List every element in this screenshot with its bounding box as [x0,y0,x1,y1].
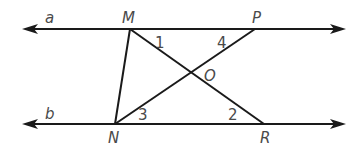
point-M-label: M [122,9,135,27]
angle-1-label: 1 [155,34,165,52]
angle-4-label: 4 [217,34,227,52]
angle-2-label: 2 [228,106,238,124]
point-O-label: O [204,67,216,85]
point-P-label: P [252,9,262,27]
line-a [22,24,346,34]
point-R-label: R [260,129,270,147]
segment-MR [130,29,264,124]
geometry-diagram: a b M P N R O 1 4 3 2 [0,0,364,151]
line-b-label: b [45,105,55,123]
point-N-label: N [108,129,119,147]
segment-MN [115,29,130,124]
line-a-label: a [45,9,54,27]
angle-3-label: 3 [138,106,148,124]
line-b [22,119,346,129]
